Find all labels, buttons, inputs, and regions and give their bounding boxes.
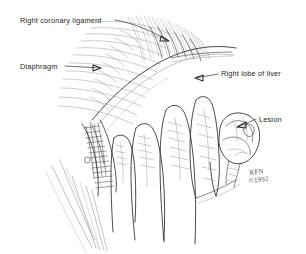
medical-illustration-figure: Right coronary ligament Diaphragm Right … (0, 0, 306, 254)
label-right-lobe-of-liver: Right lobe of liver (221, 69, 281, 78)
figure-background (0, 0, 306, 254)
label-lesion: Lesion (259, 115, 282, 124)
label-diaphragm: Diaphragm (20, 62, 58, 71)
label-right-coronary-ligament: Right coronary ligament (20, 16, 102, 25)
illustration-canvas: Right coronary ligament Diaphragm Right … (0, 0, 306, 254)
